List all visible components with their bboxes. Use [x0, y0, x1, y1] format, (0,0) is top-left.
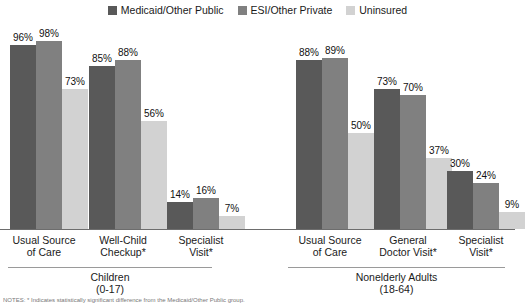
bar: 88% [296, 19, 322, 229]
bar-group-bars: 96%98%73% [10, 19, 88, 229]
legend-entry: Medicaid/Other Public [108, 5, 224, 16]
legend-swatch-icon [108, 6, 117, 15]
bar-rect [36, 41, 62, 229]
bar-rect [193, 198, 219, 229]
bar-value-label: 70% [403, 83, 423, 93]
section-divider [288, 267, 505, 268]
plot-area: 96%98%73%85%88%56%14%16%7%88%89%50%73%70… [0, 18, 515, 230]
legend-label: ESI/Other Private [251, 5, 333, 16]
chart-footnote: NOTES: * Indicates statistically signifi… [3, 297, 513, 304]
bar: 73% [62, 19, 88, 229]
bar-rect [348, 133, 374, 229]
legend-swatch-icon [238, 6, 247, 15]
bar-value-label: 50% [351, 121, 371, 131]
bar-rect [296, 60, 322, 229]
bar-value-label: 9% [505, 200, 519, 210]
section-label: Children (0-17) [8, 271, 212, 295]
bar-value-label: 16% [196, 186, 216, 196]
bar-rect [167, 202, 193, 229]
bar: 56% [141, 19, 167, 229]
bar-rect [400, 95, 426, 229]
bar-rect [115, 60, 141, 229]
legend-swatch-icon [346, 6, 355, 15]
bar-value-label: 88% [118, 48, 138, 58]
bar: 96% [10, 19, 36, 229]
bar: 24% [473, 19, 499, 229]
bar-value-label: 56% [144, 109, 164, 119]
bar-value-label: 30% [450, 159, 470, 169]
section-divider [8, 267, 212, 268]
bar-group-bars: 88%89%50% [296, 19, 374, 229]
bar-value-label: 88% [299, 48, 319, 58]
bar: 88% [115, 19, 141, 229]
legend-entry: ESI/Other Private [238, 5, 333, 16]
legend-entry: Uninsured [346, 5, 407, 16]
bar-rect [473, 183, 499, 229]
bar-rect [374, 89, 400, 229]
chart-legend: Medicaid/Other PublicESI/Other PrivateUn… [0, 2, 515, 18]
bar-group-bars: 14%16%7% [167, 19, 245, 229]
bar-value-label: 37% [429, 146, 449, 156]
bar: 70% [400, 19, 426, 229]
bar-value-label: 7% [225, 204, 239, 214]
bar-value-label: 24% [476, 171, 496, 181]
bar-rect [10, 45, 36, 229]
bar: 16% [193, 19, 219, 229]
bar-group-bars: 30%24%9% [447, 19, 525, 229]
bar-value-label: 89% [325, 46, 345, 56]
bar-rect [447, 171, 473, 229]
bar-rect [219, 216, 245, 229]
bar-value-label: 14% [170, 190, 190, 200]
x-axis-baseline [0, 229, 515, 230]
section-label: Nonelderly Adults (18-64) [288, 271, 505, 295]
bar: 89% [322, 19, 348, 229]
bar: 98% [36, 19, 62, 229]
bar-rect [141, 121, 167, 229]
bar-rect [499, 212, 525, 229]
bar-rect [322, 58, 348, 229]
bar: 30% [447, 19, 473, 229]
bar-value-label: 73% [377, 77, 397, 87]
bar: 85% [89, 19, 115, 229]
category-label: Specialist Visit* [429, 234, 529, 258]
bar-group-bars: 73%70%37% [374, 19, 452, 229]
bar-value-label: 73% [65, 77, 85, 87]
bar-value-label: 98% [39, 29, 59, 39]
bar: 7% [219, 19, 245, 229]
bar-rect [89, 66, 115, 229]
bar: 9% [499, 19, 525, 229]
category-label: Specialist Visit* [149, 234, 253, 258]
legend-label: Medicaid/Other Public [121, 5, 224, 16]
bar: 50% [348, 19, 374, 229]
bar-value-label: 85% [92, 54, 112, 64]
bar-group-bars: 85%88%56% [89, 19, 167, 229]
bar-value-label: 96% [13, 33, 33, 43]
legend-label: Uninsured [359, 5, 407, 16]
bar: 14% [167, 19, 193, 229]
bar-rect [62, 89, 88, 229]
bar: 73% [374, 19, 400, 229]
